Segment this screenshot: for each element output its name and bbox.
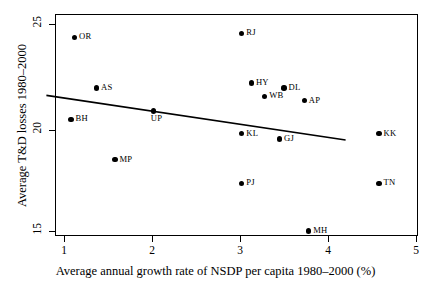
data-point-label-hy: HY — [256, 78, 269, 87]
x-tick-label-5: 5 — [401, 243, 431, 257]
x-tick-mark-5 — [416, 236, 417, 242]
data-point-as — [94, 85, 99, 90]
data-point-label-mh: MH — [313, 226, 327, 235]
x-tick-label-2: 2 — [137, 243, 167, 257]
x-tick-mark-4 — [328, 236, 329, 242]
plot-frame — [55, 14, 418, 236]
data-point-label-up: UP — [151, 114, 162, 123]
data-point-label-as: AS — [101, 83, 112, 92]
y-tick-label-15: 15 — [31, 223, 43, 235]
data-point-tn — [376, 181, 381, 186]
data-point-label-gj: GJ — [284, 134, 294, 143]
data-point-label-tn: TN — [384, 178, 396, 187]
data-point-label-pj: PJ — [246, 178, 255, 187]
data-point-label-rj: RJ — [246, 28, 255, 37]
data-point-bh — [68, 117, 73, 122]
data-point-label-wb: WB — [269, 91, 283, 100]
data-point-label-mp: MP — [120, 155, 133, 164]
data-point-label-kl: KL — [246, 129, 258, 138]
x-axis-title: Average annual growth rate of NSDP per c… — [0, 264, 431, 279]
data-point-label-dl: DL — [289, 83, 301, 92]
x-tick-label-3: 3 — [225, 243, 255, 257]
x-tick-mark-2 — [152, 236, 153, 242]
y-axis-title: Average T&D losses 1980–2000 — [15, 11, 30, 241]
data-point-gj — [277, 136, 282, 141]
data-point-mh — [306, 228, 311, 233]
data-point-hy — [249, 80, 254, 85]
data-point-label-kk: KK — [384, 129, 397, 138]
x-tick-label-4: 4 — [313, 243, 343, 257]
scatter-plot-figure: Average T&D losses 1980–2000 25 20 15 1 … — [0, 0, 431, 288]
data-point-label-or: OR — [79, 32, 91, 41]
y-tick-label-25: 25 — [31, 16, 43, 28]
x-tick-mark-3 — [240, 236, 241, 242]
x-tick-mark-1 — [64, 236, 65, 242]
data-point-label-ap: AP — [309, 96, 320, 105]
data-point-mp — [112, 157, 117, 162]
x-tick-label-1: 1 — [49, 243, 79, 257]
y-tick-label-20: 20 — [31, 122, 43, 134]
data-point-label-bh: BH — [76, 114, 88, 123]
